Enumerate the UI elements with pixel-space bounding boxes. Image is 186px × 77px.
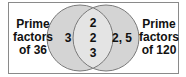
- intersection-values: 2 2 3: [84, 16, 102, 61]
- left-only-value: 3: [58, 31, 78, 45]
- intersection-value: 2: [84, 31, 102, 46]
- left-set-label: Prime factors of 36: [13, 18, 53, 57]
- left-label-line: of 36: [13, 44, 53, 57]
- intersection-value: 3: [84, 46, 102, 61]
- right-only-value: 2, 5: [108, 31, 136, 45]
- intersection-value: 2: [84, 16, 102, 31]
- right-set-label: Prime factors of 120: [138, 18, 180, 57]
- right-label-line: of 120: [138, 44, 180, 57]
